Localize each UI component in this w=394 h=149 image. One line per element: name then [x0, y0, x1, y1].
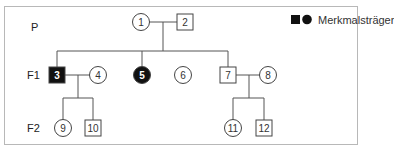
individual-5-circle-icon: 5	[134, 67, 151, 84]
individual-label: 7	[225, 70, 231, 81]
individual-6-circle-icon: 6	[175, 67, 192, 84]
legend-square-icon	[291, 15, 300, 24]
individual-7-square-icon: 7	[220, 67, 236, 83]
individual-9-circle-icon: 9	[55, 120, 72, 137]
individual-12-square-icon: 12	[256, 120, 272, 136]
individual-11-circle-icon: 11	[225, 120, 242, 137]
individual-3-square-icon: 3	[49, 67, 65, 83]
individual-label: 8	[265, 70, 271, 81]
individual-label: 6	[180, 70, 186, 81]
legend-label: Merkmalsträger	[318, 14, 394, 26]
individual-label: 1	[138, 17, 144, 28]
legend-circle-icon	[302, 15, 312, 25]
individual-label: 4	[95, 70, 101, 81]
individual-8-circle-icon: 8	[260, 67, 277, 84]
individual-1-circle-icon: 1	[133, 14, 150, 31]
individual-2-square-icon: 2	[177, 14, 193, 30]
individual-label: 9	[60, 123, 66, 134]
individual-label: 5	[139, 70, 145, 81]
individual-label: 10	[87, 123, 99, 134]
individual-label: 3	[54, 70, 60, 81]
individual-10-square-icon: 10	[85, 120, 101, 136]
individual-label: 11	[228, 123, 239, 134]
individual-label: 2	[182, 17, 188, 28]
individual-4-circle-icon: 4	[90, 67, 107, 84]
individual-label: 12	[258, 123, 270, 134]
